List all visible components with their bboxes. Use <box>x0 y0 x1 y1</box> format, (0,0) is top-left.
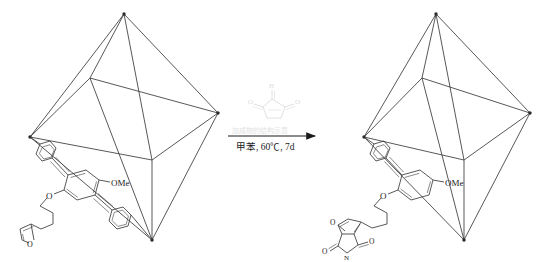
cage-edges <box>30 14 218 240</box>
reaction-scheme-figure: OMe O O H O O 加成物的结构示意 甲苯, 60℃, 7d <box>0 0 553 262</box>
central-benzene-right <box>398 170 433 200</box>
methoxy-bond-right <box>433 180 444 182</box>
maleimide-carbonyl-right-label: O <box>295 98 300 106</box>
imide-nitrogen-label: N <box>344 254 349 262</box>
maleimide-reagent <box>253 90 295 118</box>
scheme-canvas: OMe O O H O O 加成物的结构示意 甲苯, 60℃, 7d <box>0 0 553 262</box>
ether-oxygen-label-left: O <box>46 191 53 201</box>
ether-bond-left-a <box>54 190 64 194</box>
alkyne-upper-left <box>51 157 70 177</box>
propyl-chain-left <box>40 206 53 229</box>
ether-bond-right-a <box>388 190 398 194</box>
alkyne-lower-left <box>94 194 114 213</box>
methoxy-bond-left <box>99 180 110 182</box>
cage-edges <box>364 14 530 240</box>
arrow-below-label: 甲苯, 60℃, 7d <box>236 141 295 152</box>
bridge-oxygen-label: O <box>330 218 336 227</box>
carbonyl-a-label: O <box>369 237 375 246</box>
furan-oxygen-label-left: O <box>27 240 33 249</box>
reactant-ligand <box>20 137 152 243</box>
ether-oxygen-label-right: O <box>380 191 387 201</box>
cage-vertices <box>28 12 219 241</box>
methoxy-label-right: OMe <box>445 178 464 188</box>
carbonyl-b-label: O <box>322 247 328 256</box>
cage-vertices <box>362 12 531 241</box>
methoxy-label-left: OMe <box>111 178 130 188</box>
succinimide-ring <box>329 234 369 253</box>
product-cage <box>362 12 531 241</box>
reactant-cage <box>28 12 219 241</box>
arrow-above-label: 加成物的结构示意 <box>232 126 288 135</box>
alkyne-upper-right <box>385 157 404 177</box>
oxanorbornene-adduct <box>338 219 372 234</box>
maleimide-nh-label: H <box>269 82 274 90</box>
maleimide-carbonyl-left-label: O <box>248 98 253 106</box>
propyl-chain-right <box>372 206 387 228</box>
central-benzene-left <box>64 170 99 200</box>
